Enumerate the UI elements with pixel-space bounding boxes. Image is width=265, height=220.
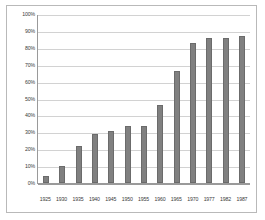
- y-axis-tick-label: 60%: [11, 80, 35, 85]
- x-axis-tick-slot: 1960: [152, 187, 168, 199]
- bar[interactable]: [76, 146, 82, 183]
- x-axis-tick-label: 1950: [122, 196, 133, 202]
- y-axis-tick-label: 10%: [11, 164, 35, 169]
- x-axis-tick-slot: 1965: [168, 187, 184, 199]
- y-axis-tick-label: 40%: [11, 114, 35, 119]
- plot-area: [37, 15, 250, 184]
- x-axis-tick-slot: 1977: [201, 187, 217, 199]
- bar-slot: [201, 15, 217, 183]
- y-axis-tick-label: 70%: [11, 63, 35, 68]
- x-axis-tick-label: 1987: [236, 196, 247, 202]
- bar[interactable]: [59, 166, 65, 183]
- bar-slot: [234, 15, 250, 183]
- bar[interactable]: [223, 38, 229, 183]
- x-axis-tick-slot: 1925: [37, 187, 53, 199]
- bar-slot: [54, 15, 70, 183]
- y-axis-tick-label: 100%: [11, 12, 35, 17]
- bar-slot: [103, 15, 119, 183]
- bar[interactable]: [239, 36, 245, 183]
- y-axis-tick-label: 0%: [11, 181, 35, 186]
- y-axis-tick-label: 80%: [11, 46, 35, 51]
- bar[interactable]: [157, 105, 163, 183]
- x-axis-tick-slot: 1955: [135, 187, 151, 199]
- y-axis-tick-label: 30%: [11, 131, 35, 136]
- bar[interactable]: [43, 176, 49, 183]
- x-axis-tick-slot: 1970: [185, 187, 201, 199]
- x-axis-tick-label: 1970: [187, 196, 198, 202]
- x-axis-tick-slot: 1930: [53, 187, 69, 199]
- bar[interactable]: [190, 43, 196, 183]
- x-axis-tick-slot: 1935: [70, 187, 86, 199]
- bar-slot: [169, 15, 185, 183]
- x-axis-tick-label: 1945: [105, 196, 116, 202]
- x-axis-tick-label: 1935: [73, 196, 84, 202]
- x-axis-tick-label: 1960: [154, 196, 165, 202]
- x-axis-tick-label: 1977: [204, 196, 215, 202]
- bar-slot: [217, 15, 233, 183]
- x-axis-tick-label: 1955: [138, 196, 149, 202]
- x-axis-tick-slot: 1950: [119, 187, 135, 199]
- bar-slot: [152, 15, 168, 183]
- bar-slot: [136, 15, 152, 183]
- bar-slot: [87, 15, 103, 183]
- bar-slot: [120, 15, 136, 183]
- axis-baseline: [38, 184, 250, 185]
- x-axis: 1925193019351940194519501955196019651970…: [37, 187, 250, 199]
- bar-slot: [38, 15, 54, 183]
- x-axis-tick-label: 1925: [40, 196, 51, 202]
- x-axis-tick-slot: 1945: [103, 187, 119, 199]
- bar[interactable]: [141, 126, 147, 183]
- bar-series: [38, 15, 250, 183]
- bar-slot: [185, 15, 201, 183]
- bar[interactable]: [108, 131, 114, 183]
- chart-plot-wrapper: 100%90%80%70%60%50%40%30%20%10%0% 192519…: [7, 6, 256, 212]
- x-axis-tick-slot: 1987: [234, 187, 250, 199]
- y-axis-tick-label: 50%: [11, 97, 35, 102]
- bar[interactable]: [125, 126, 131, 183]
- y-axis: 100%90%80%70%60%50%40%30%20%10%0%: [11, 15, 35, 184]
- bar[interactable]: [174, 71, 180, 183]
- x-axis-tick-slot: 1982: [217, 187, 233, 199]
- x-axis-tick-slot: 1940: [86, 187, 102, 199]
- x-axis-tick-label: 1930: [56, 196, 67, 202]
- bar[interactable]: [206, 38, 212, 183]
- bar-slot: [71, 15, 87, 183]
- y-axis-tick-label: 20%: [11, 148, 35, 153]
- x-axis-tick-label: 1965: [171, 196, 182, 202]
- x-axis-tick-label: 1982: [220, 196, 231, 202]
- x-axis-tick-label: 1940: [89, 196, 100, 202]
- y-axis-tick-label: 90%: [11, 29, 35, 34]
- chart-frame: 100%90%80%70%60%50%40%30%20%10%0% 192519…: [6, 5, 257, 213]
- bar[interactable]: [92, 134, 98, 183]
